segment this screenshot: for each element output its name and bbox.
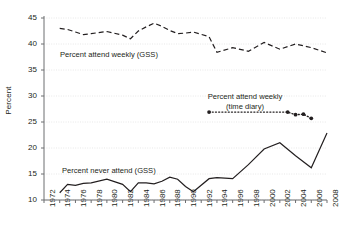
series-marker-1 — [302, 112, 306, 116]
series-marker-1 — [309, 116, 313, 120]
series-line-2 — [60, 133, 327, 193]
series-line-0 — [60, 23, 327, 53]
attend-weekly-timediary-label: Percent attend weekly (time diary) — [186, 92, 304, 111]
series-marker-1 — [294, 113, 298, 117]
timediary-label-line1: Percent attend weekly — [186, 92, 304, 102]
timediary-label-line2: (time diary) — [186, 102, 304, 112]
never-attend-gss-label: Percent never attend (GSS) — [62, 166, 156, 175]
attend-weekly-gss-label: Percent attend weekly (GSS) — [60, 50, 158, 59]
